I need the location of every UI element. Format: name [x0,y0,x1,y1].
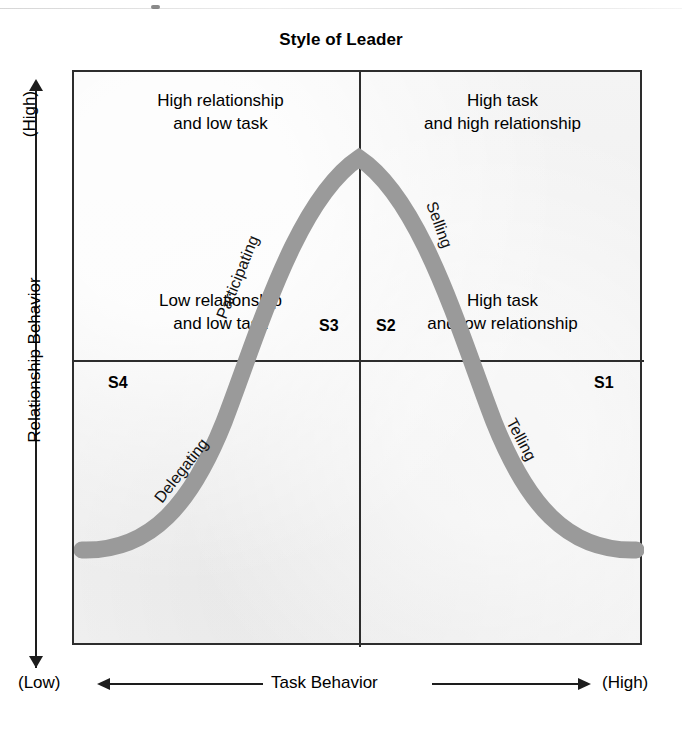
x-axis-title: Task Behavior [271,673,378,693]
y-axis-high-label: (High) [20,69,40,159]
x-axis-line-right [432,683,578,685]
plot-area: High relationship and low task High task… [72,70,642,645]
quadrant-label-bottom-right: High task and low relationship [361,290,644,335]
curve-label-delegating: Delegating [151,435,211,506]
quadrant-label-bottom-left: Low relationship and low task [82,290,359,335]
curve-label-telling: Telling [503,415,539,463]
x-axis-line-left [110,683,263,685]
paper-texture [74,72,640,643]
horizontal-divider [74,360,644,362]
x-axis-high-label: (High) [602,673,648,693]
scan-artifact-line [0,8,682,9]
style-code-s4: S4 [108,374,128,392]
x-axis-low-label: (Low) [18,673,61,693]
style-code-s2: S2 [376,317,396,335]
x-axis-arrow-right [578,678,591,690]
y-axis-title: Relationship Behavior [25,250,45,470]
style-code-s3: S3 [319,317,339,335]
y-axis-arrow-down [29,656,43,668]
leadership-style-diagram: Style of Leader High relationship and lo… [0,0,682,739]
quadrant-label-top-right: High task and high relationship [361,90,644,135]
page-title: Style of Leader [0,30,682,50]
scan-artifact-speck [151,5,160,9]
x-axis-arrow-left [97,678,110,690]
curve-label-selling: Selling [423,199,455,250]
style-code-s1: S1 [594,374,614,392]
quadrant-label-top-left: High relationship and low task [82,90,359,135]
